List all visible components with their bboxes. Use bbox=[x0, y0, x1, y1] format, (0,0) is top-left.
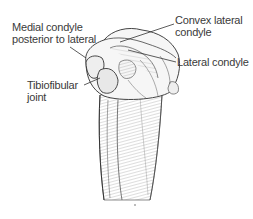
label-line: condyle bbox=[175, 26, 243, 38]
label-line: Medial condyle bbox=[12, 21, 96, 33]
label-line: Tibiofibular bbox=[27, 79, 78, 91]
label-lateral-condyle: Lateral condyle bbox=[177, 56, 249, 68]
label-medial-condyle: Medial condyle posterior to lateral bbox=[12, 21, 96, 45]
tibia-shaft bbox=[99, 95, 162, 206]
label-tibiofibular-joint: Tibiofibular joint bbox=[27, 79, 78, 103]
label-line: Lateral condyle bbox=[177, 56, 249, 68]
label-line: posterior to lateral bbox=[12, 33, 96, 45]
label-convex-lateral-condyle: Convex lateral condyle bbox=[175, 14, 243, 38]
label-line: Convex lateral bbox=[175, 14, 243, 26]
leader-medial-condyle bbox=[70, 47, 86, 58]
tibia-proximal bbox=[86, 28, 180, 99]
anatomy-figure: Medial condyle posterior to lateral Conv… bbox=[0, 0, 253, 219]
label-line: joint bbox=[27, 91, 78, 103]
